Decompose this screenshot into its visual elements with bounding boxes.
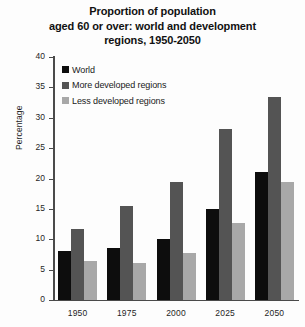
chart-title-line-2: aged 60 or over: world and development [0,19,305,34]
y-axis-tick-mark [49,148,53,149]
y-axis-tick-label: 0 [40,294,45,304]
bar [219,129,232,300]
bar-group [206,57,245,300]
x-axis-tick-label: 2000 [156,308,196,318]
bar [133,263,146,300]
bar [71,229,84,300]
y-axis-tick-mark [49,270,53,271]
legend-swatch-icon [62,97,69,104]
bar [120,206,133,300]
bar [255,172,268,300]
legend-swatch-icon [62,82,69,89]
legend-item: World [62,63,166,76]
y-axis-tick-mark [49,179,53,180]
legend-item-label: More developed regions [72,80,166,90]
bar [232,223,245,300]
y-axis-tick-label: 10 [36,233,45,243]
legend-item-label: Less developed regions [72,96,165,106]
y-axis-tick-label: 40 [36,51,45,61]
bar [268,97,281,301]
bar [58,251,71,300]
y-axis-tick-mark [49,300,53,301]
bar-group [255,57,294,300]
chart-title: Proportion of population aged 60 or over… [0,4,305,48]
y-axis-tick-mark [49,87,53,88]
y-axis-tick-mark [49,239,53,240]
chart-container: Proportion of population aged 60 or over… [0,0,305,327]
y-axis-tick-label: 35 [36,81,45,91]
bar [183,253,196,300]
chart-title-line-1: Proportion of population [0,4,305,19]
y-axis-tick-mark [49,118,53,119]
bar [107,248,120,300]
legend-item-label: World [72,65,95,75]
legend-swatch-icon [62,66,69,73]
bar [170,182,183,300]
y-axis-tick-label: 5 [40,264,45,274]
y-axis-tick-mark [49,209,53,210]
x-axis-tick-label: 2025 [205,308,245,318]
y-axis-tick-label: 20 [36,173,45,183]
y-axis-title: Percentage [14,106,24,150]
bar [206,209,219,300]
chart-legend: WorldMore developed regionsLess develope… [62,63,166,110]
chart-title-line-3: regions, 1950-2050 [0,33,305,48]
y-axis-tick-label: 15 [36,203,45,213]
bar [157,239,170,300]
x-axis-tick-label: 1950 [58,308,98,318]
legend-item: Less developed regions [62,94,166,107]
y-axis-tick-label: 30 [36,112,45,122]
y-axis-tick-mark [49,57,53,58]
legend-item: More developed regions [62,79,166,92]
bar [84,261,97,300]
y-axis-tick-label: 25 [36,142,45,152]
bar [281,182,294,300]
x-axis-tick-label: 2050 [254,308,294,318]
x-axis-tick-label: 1975 [107,308,147,318]
